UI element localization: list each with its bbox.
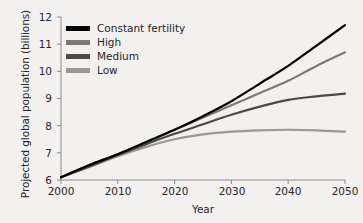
legend-item[interactable]: Low [66, 63, 185, 77]
legend-item[interactable]: High [66, 35, 185, 49]
legend-item[interactable]: Constant fertility [66, 21, 185, 35]
legend-item[interactable]: Medium [66, 49, 185, 63]
series-line [61, 130, 345, 178]
x-tick-marks [61, 180, 345, 184]
legend-label: Low [97, 65, 118, 76]
legend-label: Medium [97, 51, 139, 62]
legend-label: Constant fertility [97, 23, 185, 34]
chart-legend: Constant fertility High Medium Low [66, 21, 185, 77]
legend-label: High [97, 37, 121, 48]
legend-swatch-high [66, 40, 90, 45]
legend-swatch-constant-fertility [66, 26, 90, 31]
legend-swatch-low [66, 68, 90, 73]
y-tick-marks [57, 17, 61, 180]
legend-swatch-medium [66, 54, 90, 59]
